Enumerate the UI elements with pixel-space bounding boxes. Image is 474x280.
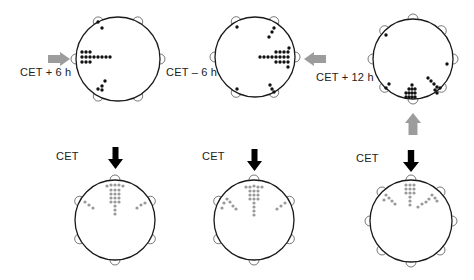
source-dot (433, 196, 436, 199)
source-dot (117, 200, 120, 203)
source-dot (252, 209, 255, 212)
source-dot (252, 184, 255, 187)
source-dot (262, 55, 265, 58)
source-dot (435, 85, 438, 88)
arrow-down-icon (108, 147, 123, 169)
source-dot (139, 203, 142, 206)
source-dot (252, 197, 255, 200)
source-dot (117, 183, 120, 186)
source-dot (220, 206, 223, 209)
source-dot (427, 197, 430, 200)
source-dot (121, 184, 124, 187)
source-dot (286, 55, 289, 58)
source-dot (252, 201, 255, 204)
source-dot (407, 95, 410, 98)
source-dot (286, 65, 289, 68)
source-dot (268, 83, 271, 86)
source-dot (88, 55, 91, 58)
source-dot (96, 87, 99, 90)
source-dot (270, 30, 273, 33)
source-dot (407, 91, 410, 94)
source-dot (408, 199, 411, 202)
source-dot (248, 189, 251, 192)
source-dot (248, 185, 251, 188)
source-dot (438, 86, 441, 89)
arrow-down-icon (403, 150, 419, 172)
arrow-down-icon (247, 149, 262, 171)
source-dot (282, 60, 285, 63)
source-dot (96, 20, 99, 23)
source-dot (445, 62, 448, 65)
label-cet-right: CET (356, 152, 379, 164)
source-dot (96, 55, 99, 58)
label-cet-middle: CET (202, 150, 225, 162)
source-dot (231, 204, 234, 207)
source-dot (222, 201, 225, 204)
source-dot (266, 55, 269, 58)
source-dot (404, 91, 407, 94)
source-dot (117, 192, 120, 195)
source-dot (408, 183, 411, 186)
source-dot (92, 55, 95, 58)
source-dot (248, 197, 251, 200)
source-dot (103, 79, 106, 82)
source-dot (109, 196, 112, 199)
source-dot (113, 208, 116, 211)
source-dot (91, 206, 94, 209)
source-dot (88, 60, 91, 63)
source-dot (80, 55, 83, 58)
label-cet-plus-12h: CET + 12 h (316, 71, 374, 83)
source-dot (410, 95, 413, 98)
source-dot (272, 90, 275, 93)
source-dot (435, 199, 438, 202)
source-dot (279, 204, 282, 207)
source-dot (267, 35, 270, 38)
source-dot (84, 50, 87, 53)
source-dot (384, 86, 387, 89)
source-dot (256, 185, 259, 188)
source-dot (104, 55, 107, 58)
source-dot (109, 192, 112, 195)
source-dot (429, 79, 432, 82)
head-outline (75, 180, 155, 260)
source-dot (105, 184, 108, 187)
source-dot (432, 82, 435, 85)
source-dot (430, 193, 433, 196)
arrow-left-icon (304, 52, 326, 66)
source-dot (135, 206, 138, 209)
source-dot (282, 50, 285, 53)
source-dot (426, 76, 429, 79)
source-dot (412, 183, 415, 186)
head-outline (76, 17, 160, 101)
source-dot (258, 55, 261, 58)
source-dot (113, 196, 116, 199)
source-dot (404, 191, 407, 194)
source-dot (228, 200, 231, 203)
source-dot (387, 196, 390, 199)
source-dot (274, 55, 277, 58)
source-dot (282, 55, 285, 58)
source-dot (83, 200, 86, 203)
source-dot (390, 199, 393, 202)
source-dot (410, 83, 413, 86)
source-dot (283, 201, 286, 204)
source-dot (408, 203, 411, 206)
head-plot-cet-plus-6h (48, 17, 165, 101)
arrow-up-icon (405, 113, 421, 135)
source-dot (272, 26, 275, 29)
source-dot (100, 26, 103, 29)
source-dot (404, 187, 407, 190)
source-dot (113, 212, 116, 215)
source-dot (278, 60, 281, 63)
source-dot (84, 55, 87, 58)
source-dot (225, 197, 228, 200)
source-dot (143, 201, 146, 204)
source-dot (80, 60, 83, 63)
source-dot (109, 188, 112, 191)
source-dot (84, 60, 87, 63)
source-dot (270, 87, 273, 90)
source-dot (235, 25, 238, 28)
source-dot (420, 202, 423, 205)
source-dot (244, 185, 247, 188)
head-plot-cet-minus-6h (210, 17, 326, 98)
